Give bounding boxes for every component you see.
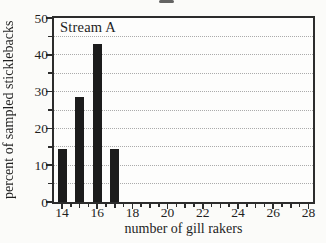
x-tick-label-28: 28 — [295, 206, 321, 220]
histogram-chart: percent of sampled sticklebacks Stream A… — [0, 0, 326, 243]
x-tick-17 — [114, 204, 116, 208]
x-tick-19 — [149, 204, 151, 208]
y-tick-label-10: 10 — [20, 158, 48, 173]
x-tick-label-26: 26 — [260, 206, 286, 220]
bar-17 — [110, 149, 119, 202]
y-tick-label-0: 0 — [20, 195, 48, 210]
y-tick-label-20: 20 — [20, 121, 48, 136]
x-tick-15 — [79, 204, 81, 208]
x-tick-label-16: 16 — [84, 206, 110, 220]
x-tick-25 — [255, 204, 257, 208]
y-tick-35 — [48, 72, 52, 74]
y-tick-25 — [48, 109, 52, 111]
bar-16 — [93, 44, 102, 202]
x-tick-label-14: 14 — [49, 206, 75, 220]
cropped-text-artifact — [159, 0, 174, 3]
y-tick-label-50: 50 — [20, 11, 48, 26]
x-tick-label-24: 24 — [225, 206, 251, 220]
x-tick-23 — [220, 204, 222, 208]
gridline-45 — [54, 36, 313, 37]
panel-label: Stream A — [60, 19, 116, 36]
x-axis-title: number of gill rakers — [52, 221, 315, 237]
x-tick-27 — [290, 204, 292, 208]
x-tick-label-18: 18 — [119, 206, 145, 220]
x-tick-label-22: 22 — [190, 206, 216, 220]
bar-14 — [58, 149, 67, 202]
y-tick-label-30: 30 — [20, 84, 48, 99]
y-tick-15 — [48, 146, 52, 148]
x-tick-label-20: 20 — [155, 206, 181, 220]
x-tick-21 — [184, 204, 186, 208]
y-tick-label-40: 40 — [20, 47, 48, 62]
y-axis-title: percent of sampled sticklebacks — [1, 14, 18, 206]
y-tick-45 — [48, 36, 52, 38]
y-tick-5 — [48, 183, 52, 185]
bar-15 — [75, 97, 84, 202]
plot-area: Stream A — [52, 16, 315, 204]
